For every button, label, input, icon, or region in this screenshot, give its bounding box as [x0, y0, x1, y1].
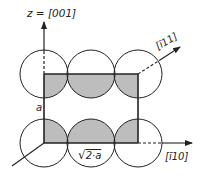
width-label: √2·a [78, 148, 101, 162]
z-axis-label: z = [001] [26, 7, 76, 19]
x-axis-label: [ī10] [165, 151, 188, 162]
height-label: a [36, 102, 42, 113]
diag-axis-label: [ī11] [154, 31, 180, 52]
diag-axis-tail [12, 143, 44, 166]
width-value: 2·a [86, 150, 102, 161]
unit-cell-diagram: z = [001] [ī11] [ī10] a √2·a [0, 0, 204, 177]
